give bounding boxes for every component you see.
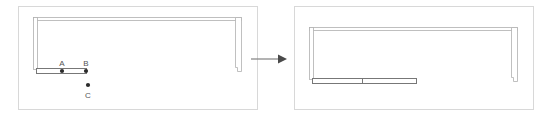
right-panel-frame <box>295 7 534 110</box>
left-panel-plan <box>34 18 242 72</box>
right-top-wall <box>310 28 518 31</box>
figure-canvas: A B C <box>0 0 552 118</box>
arrow-head-icon <box>278 55 287 64</box>
left-panel[interactable]: A B C <box>19 7 258 110</box>
counter-bar-extended-body[interactable] <box>313 79 417 84</box>
left-left-wall <box>34 18 38 70</box>
right-panel-plan <box>310 28 518 82</box>
left-panel-frame <box>19 7 258 110</box>
point-c[interactable] <box>86 83 90 87</box>
measurement-points[interactable]: A B C <box>59 59 91 100</box>
left-top-wall <box>34 18 242 21</box>
diagram-vector-layer: A B C <box>0 0 552 118</box>
right-left-wall <box>310 28 314 80</box>
right-panel[interactable] <box>295 7 534 110</box>
right-right-wall <box>512 28 518 82</box>
point-b-label: B <box>83 59 88 68</box>
counter-bar-extended[interactable] <box>313 79 417 84</box>
point-c-label: C <box>85 91 91 100</box>
transformation-arrow <box>251 55 287 64</box>
left-right-wall <box>236 18 242 72</box>
point-a[interactable] <box>60 69 64 73</box>
point-a-label: A <box>59 59 65 68</box>
point-b[interactable] <box>84 69 88 73</box>
